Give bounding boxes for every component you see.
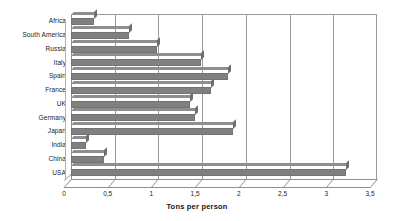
bar-top-face: [71, 150, 107, 153]
bar-top-face: [71, 163, 349, 166]
x-axis-tick-label: 1,5: [183, 190, 207, 197]
gridline: [202, 15, 203, 180]
bar: [71, 46, 157, 53]
bar: [71, 59, 201, 66]
bar-side-face: [195, 106, 198, 116]
category-label: UK: [0, 100, 66, 107]
bar: [71, 169, 346, 176]
gridline: [246, 15, 247, 180]
category-label: India: [0, 141, 66, 148]
category-label: Spain: [0, 72, 66, 79]
bar: [71, 73, 228, 80]
category-label: Japan: [0, 127, 66, 134]
x-axis-tick-label: 0,5: [96, 190, 120, 197]
y-axis-category-labels: AfricaSouth AmericaRussiaItalySpainFranc…: [0, 14, 66, 174]
bar-top-face: [71, 53, 204, 56]
bar-top-face: [71, 67, 231, 70]
x-axis-tick-label: 1: [139, 190, 163, 197]
bar-side-face: [346, 161, 349, 171]
bar-chart: AfricaSouth AmericaRussiaItalySpainFranc…: [0, 0, 394, 221]
x-axis-title: Tons per person: [0, 202, 394, 211]
plot-area: [71, 14, 377, 179]
bar-top-face: [71, 40, 159, 43]
x-axis-tick: [369, 179, 378, 188]
bar-side-face: [104, 147, 107, 157]
category-label: USA: [0, 169, 66, 176]
bar-side-face: [233, 119, 236, 129]
bar-side-face: [228, 64, 231, 74]
bar-side-face: [211, 78, 214, 88]
bar-top-face: [71, 12, 96, 15]
bar-top-face: [71, 95, 193, 98]
category-label: France: [0, 86, 66, 93]
bar: [71, 156, 104, 163]
category-label: China: [0, 155, 66, 162]
category-label: Africa: [0, 17, 66, 24]
bar-top-face: [71, 81, 214, 84]
bar: [71, 114, 195, 121]
gridline: [333, 15, 334, 180]
bar-top-face: [71, 122, 235, 125]
bar: [71, 128, 233, 135]
bar: [71, 142, 86, 149]
bar: [71, 101, 190, 108]
bar-top-face: [71, 108, 198, 111]
category-label: Germany: [0, 114, 66, 121]
category-label: Russia: [0, 45, 66, 52]
x-axis-tick-label: 2: [227, 190, 251, 197]
category-label: South America: [0, 31, 66, 38]
bar: [71, 18, 94, 25]
bar-side-face: [129, 23, 132, 33]
bar-side-face: [86, 133, 89, 143]
x-axis-tick-label: 2,5: [271, 190, 295, 197]
bar: [71, 87, 211, 94]
bar-top-face: [71, 26, 131, 29]
x-axis-tick-label: 3: [314, 190, 338, 197]
bar-side-face: [190, 92, 193, 102]
gridline: [290, 15, 291, 180]
bar-side-face: [94, 9, 97, 19]
bar: [71, 32, 129, 39]
category-label: Italy: [0, 59, 66, 66]
x-axis-tick-label: 3,5: [358, 190, 382, 197]
x-axis-tick-label: 0: [52, 190, 76, 197]
